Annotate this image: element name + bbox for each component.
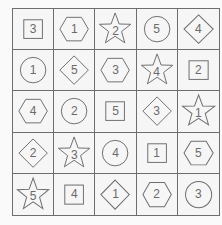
cell-number: 5 <box>178 133 219 173</box>
grid-cell[interactable]: 2 <box>54 91 95 132</box>
grid-cell[interactable]: 5 <box>137 9 178 50</box>
grid-cell[interactable]: 5 <box>95 91 136 132</box>
grid-cell[interactable]: 3 <box>54 133 95 174</box>
grid-cell[interactable]: 4 <box>13 91 54 132</box>
grid-cell[interactable]: 1 <box>13 50 54 91</box>
cell-number: 5 <box>95 91 135 131</box>
cell-number: 3 <box>13 9 53 49</box>
grid-cell[interactable]: 4 <box>178 9 219 50</box>
grid-cell[interactable]: 4 <box>137 50 178 91</box>
cell-number: 2 <box>95 9 135 49</box>
cell-number: 1 <box>178 91 219 131</box>
cell-number: 4 <box>54 174 94 215</box>
cell-number: 1 <box>13 50 53 90</box>
cell-number: 2 <box>137 174 177 215</box>
grid-cell[interactable]: 5 <box>178 133 219 174</box>
grid-cell[interactable]: 4 <box>54 174 95 215</box>
grid-cell[interactable]: 3 <box>178 174 219 215</box>
grid-cell[interactable]: 2 <box>95 9 136 50</box>
cell-number: 4 <box>137 50 177 90</box>
cell-number: 5 <box>13 174 53 215</box>
cell-number: 5 <box>137 9 177 49</box>
grid-cell[interactable]: 3 <box>137 91 178 132</box>
puzzle-grid: 3125415342425312341554123 <box>12 8 220 216</box>
cell-number: 2 <box>178 50 219 90</box>
grid-cell[interactable]: 3 <box>13 9 54 50</box>
cell-number: 3 <box>95 50 135 90</box>
cell-number: 1 <box>54 9 94 49</box>
cell-number: 4 <box>13 91 53 131</box>
cell-number: 1 <box>95 174 135 215</box>
grid-cell[interactable]: 2 <box>13 133 54 174</box>
cell-number: 3 <box>178 174 219 215</box>
grid-cell[interactable]: 1 <box>54 9 95 50</box>
grid-cell[interactable]: 1 <box>178 91 219 132</box>
grid-cell[interactable]: 5 <box>13 174 54 215</box>
cell-number: 4 <box>178 9 219 49</box>
grid-cell[interactable]: 2 <box>137 174 178 215</box>
cell-number: 5 <box>54 50 94 90</box>
cell-number: 3 <box>137 91 177 131</box>
grid-cell[interactable]: 2 <box>178 50 219 91</box>
cell-number: 4 <box>95 133 135 173</box>
cell-number: 3 <box>54 133 94 173</box>
grid-cell[interactable]: 4 <box>95 133 136 174</box>
cell-number: 2 <box>13 133 53 173</box>
grid-cell[interactable]: 1 <box>137 133 178 174</box>
grid-cell[interactable]: 3 <box>95 50 136 91</box>
cell-number: 2 <box>54 91 94 131</box>
grid-cell[interactable]: 1 <box>95 174 136 215</box>
grid-cell[interactable]: 5 <box>54 50 95 91</box>
cell-number: 1 <box>137 133 177 173</box>
